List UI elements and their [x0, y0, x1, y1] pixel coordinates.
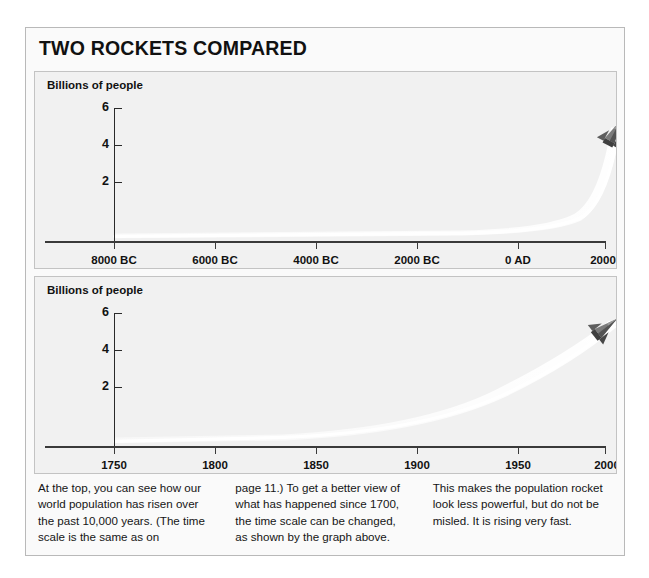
x-tick-0-modern — [114, 446, 115, 454]
caption-column-1: At the top, you can see how our world po… — [38, 480, 213, 546]
x-tick-4-modern — [518, 446, 519, 454]
caption-column-2: page 11.) To get a better view of what h… — [235, 480, 410, 546]
y-tick-6-modern: 6 — [114, 313, 122, 314]
y-tick-label-6-modern: 6 — [102, 305, 109, 319]
chart-panel-ancient: Billions of people — [34, 71, 617, 269]
x-axis-line-modern — [45, 446, 606, 448]
caption: At the top, you can see how our world po… — [38, 480, 608, 546]
x-tick-label-0-modern: 1750 — [101, 459, 127, 471]
x-tick-label-1-ancient: 6000 BC — [192, 254, 237, 266]
plot-area-ancient: 6 4 2 8000 BC 6000 BC 4000 BC 2000 BC 0 … — [35, 94, 616, 268]
x-tick-3-ancient — [417, 241, 418, 249]
x-tick-label-1-modern: 1800 — [202, 459, 228, 471]
y-tick-2-modern: 2 — [114, 387, 122, 388]
x-tick-5-ancient — [605, 241, 606, 249]
x-tick-label-4-modern: 1950 — [505, 459, 531, 471]
x-tick-label-5-ancient: 2000 — [590, 254, 616, 266]
y-axis-title-modern: Billions of people — [47, 284, 143, 296]
caption-column-3: This makes the population rocket look le… — [433, 480, 608, 546]
x-tick-1-modern — [215, 446, 216, 454]
x-tick-0-ancient — [114, 241, 115, 249]
x-tick-label-3-ancient: 2000 BC — [394, 254, 439, 266]
y-tick-label-6-ancient: 6 — [102, 100, 109, 114]
x-tick-label-5-modern: 2000 — [594, 459, 617, 471]
x-tick-2-modern — [316, 446, 317, 454]
figure-frame: TWO ROCKETS COMPARED Billions of people — [25, 27, 625, 556]
y-tick-label-4-ancient: 4 — [102, 137, 109, 151]
x-tick-label-2-modern: 1850 — [303, 459, 329, 471]
y-tick-6-ancient: 6 — [114, 108, 122, 109]
x-tick-label-4-ancient: 0 AD — [505, 254, 531, 266]
x-tick-4-ancient — [518, 241, 519, 249]
x-tick-3-modern — [417, 446, 418, 454]
y-axis-line-modern — [114, 313, 115, 446]
x-tick-2-ancient — [316, 241, 317, 249]
y-tick-4-ancient: 4 — [114, 145, 122, 146]
y-tick-label-2-ancient: 2 — [102, 174, 109, 188]
y-tick-label-2-modern: 2 — [102, 379, 109, 393]
page-title: TWO ROCKETS COMPARED — [39, 37, 307, 60]
y-axis-title-ancient: Billions of people — [47, 79, 143, 91]
chart-panel-modern: Billions of people — [34, 276, 617, 474]
x-tick-label-2-ancient: 4000 BC — [293, 254, 338, 266]
plot-area-modern: 6 4 2 1750 1800 1850 1900 1950 2000 — [35, 299, 616, 473]
y-tick-2-ancient: 2 — [114, 182, 122, 183]
x-tick-label-0-ancient: 8000 BC — [91, 254, 136, 266]
y-axis-line-ancient — [114, 108, 115, 241]
x-axis-line-ancient — [45, 241, 606, 243]
y-tick-4-modern: 4 — [114, 350, 122, 351]
y-tick-label-4-modern: 4 — [102, 342, 109, 356]
x-tick-label-3-modern: 1900 — [404, 459, 430, 471]
x-tick-1-ancient — [215, 241, 216, 249]
x-tick-5-modern — [605, 446, 606, 454]
